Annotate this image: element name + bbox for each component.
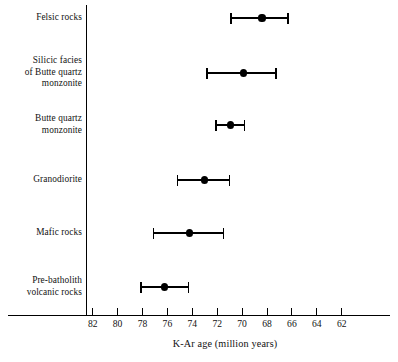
error-bar-cap-left <box>153 228 155 239</box>
category-label-felsic-rocks: Felsic rocks <box>0 12 82 24</box>
x-axis-tick-70 <box>242 308 243 315</box>
category-label-pre-batholith-volcanic-rocks: Pre-batholith volcanic rocks <box>0 275 82 298</box>
x-axis-tick-76 <box>167 308 168 315</box>
data-point-marker <box>201 176 208 183</box>
x-axis-tick-72 <box>217 308 218 315</box>
category-label-silicic-facies-of-butte-quartz-monzonite: Silicic facies of Butte quartz monzonite <box>0 55 82 90</box>
error-bar-cap-right <box>188 282 190 293</box>
k-ar-age-range-chart: Felsic rocks Silicic facies of Butte qua… <box>0 0 398 362</box>
error-bar-cap-right <box>244 120 246 131</box>
x-axis-tick-78 <box>142 308 143 315</box>
x-axis-tick-80 <box>117 308 118 315</box>
error-bar-cap-right <box>223 228 225 239</box>
category-label-mafic-rocks: Mafic rocks <box>0 227 82 239</box>
data-point-marker <box>240 69 247 76</box>
error-bar-cap-left <box>206 68 208 79</box>
x-axis-tick-82 <box>92 308 93 315</box>
category-label-butte-quartz-monzonite: Butte quartz monzonite <box>0 113 82 136</box>
x-axis-tick-68 <box>267 308 268 315</box>
data-point-marker <box>161 283 168 290</box>
x-axis-line <box>8 315 390 316</box>
error-bar-cap-left <box>230 13 232 24</box>
error-bar-cap-left <box>215 120 217 131</box>
error-bar-cap-right <box>229 175 231 186</box>
error-bar-cap-right <box>287 13 289 24</box>
x-axis-tick-66 <box>291 308 292 315</box>
data-point-marker <box>186 229 193 236</box>
error-bar-cap-right <box>275 68 277 79</box>
error-bar-cap-left <box>140 282 142 293</box>
y-axis-line <box>86 5 87 316</box>
x-axis-title: K-Ar age (million years) <box>100 338 350 349</box>
data-point-marker <box>258 14 265 21</box>
x-axis-tick-74 <box>192 308 193 315</box>
x-axis-tick-62 <box>341 308 342 315</box>
category-label-granodiorite: Granodiorite <box>0 174 82 186</box>
x-axis-tick-64 <box>316 308 317 315</box>
data-point-marker <box>227 121 234 128</box>
x-axis-tick-label-62: 62 <box>327 318 357 329</box>
error-bar-cap-left <box>177 175 179 186</box>
